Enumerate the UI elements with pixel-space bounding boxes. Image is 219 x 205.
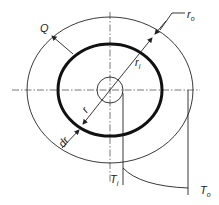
radius-dimension	[83, 90, 110, 124]
inner-temp-label: Ti	[110, 173, 119, 187]
outer-radius-label: ro	[187, 8, 195, 22]
radius-label: r	[79, 103, 92, 114]
inner-radius-label: ri	[135, 56, 141, 70]
cylinder-conduction-diagram: Q ro ri r dr Ti To	[0, 0, 219, 205]
temperature-profile-curve	[123, 168, 188, 188]
heat-flow-label: Q	[40, 22, 49, 34]
heat-flow-arrow	[52, 36, 73, 54]
outer-temp-label: To	[200, 184, 211, 198]
